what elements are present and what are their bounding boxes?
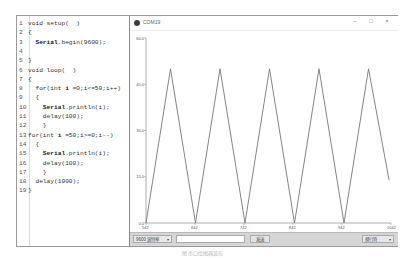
line-number: 16 (19, 159, 28, 168)
code-line: 19} (19, 186, 32, 195)
plot-area: 60.045.030.015.00.05426427428429421042 (130, 30, 398, 233)
code-text: } (28, 187, 32, 194)
arduino-app-icon (134, 20, 140, 26)
bottom-toolbar: 9600 波特率 ▾ 发送 换行符 ▾ (130, 232, 398, 246)
code-line: 10 Serial.println(i); (19, 103, 110, 112)
code-line: 14 { (19, 140, 39, 149)
baud-rate-value: 9600 波特率 (136, 237, 159, 242)
code-text: delay(1000); (28, 178, 80, 185)
code-line: 9 { (19, 93, 39, 102)
code-text: } (28, 57, 32, 64)
line-number: 12 (19, 121, 28, 130)
line-number: 13 (19, 131, 28, 140)
code-line: 2{ (19, 28, 32, 37)
line-number: 7 (19, 75, 28, 84)
code-text: for(int i =50;i>=0;i--) (28, 132, 113, 139)
code-text: } (28, 169, 47, 176)
x-tick-label: 1042 (387, 225, 396, 230)
line-number: 18 (19, 177, 28, 186)
line-number: 10 (19, 103, 28, 112)
line-number: 4 (19, 47, 28, 56)
code-line: 11 delay(100); (19, 112, 84, 121)
code-text: { (28, 76, 32, 83)
title-bar[interactable]: COM19 – □ × (130, 16, 398, 31)
code-text: { (28, 141, 39, 148)
line-number: 2 (19, 28, 28, 37)
code-line: 4 (19, 47, 28, 56)
code-line: 1void setup( ) (19, 19, 80, 28)
line-number: 1 (19, 19, 28, 28)
code-line: 5} (19, 56, 32, 65)
series-line (146, 69, 389, 223)
y-tick-label: 15.0 (130, 174, 144, 179)
code-text: } (28, 122, 47, 129)
code-line: 8 for(int i =0;i<=50;i++) (19, 84, 121, 93)
send-button[interactable]: 发送 (250, 235, 270, 243)
code-line: 6void loop( ) (19, 66, 76, 75)
line-number: 8 (19, 84, 28, 93)
y-tick-label: 60.0 (130, 36, 144, 41)
chevron-down-icon: ▾ (389, 236, 391, 244)
window-title: COM19 (143, 19, 160, 25)
line-number: 11 (19, 112, 28, 121)
x-tick-label: 642 (191, 225, 198, 230)
line-number: 5 (19, 56, 28, 65)
line-number: 3 (19, 38, 28, 47)
code-line: 15 Serial.println(i); (19, 149, 110, 158)
line-chart (130, 30, 398, 233)
figure-caption: 图 串口绘图器波形 (0, 249, 405, 256)
code-text: Serial.begin(9600); (28, 39, 106, 46)
close-button[interactable]: × (382, 18, 392, 24)
x-tick-label: 542 (142, 225, 149, 230)
y-tick-label: 30.0 (130, 128, 144, 133)
code-text: { (28, 94, 39, 101)
screenshot-frame: 1void setup( )2{3 Serial.begin(9600);45}… (16, 15, 398, 247)
x-tick-label: 842 (289, 225, 296, 230)
code-text: { (28, 29, 32, 36)
line-number: 14 (19, 140, 28, 149)
x-tick-label: 742 (240, 225, 247, 230)
code-text: Serial.println(i); (28, 104, 110, 111)
code-line: 12 } (19, 121, 47, 130)
line-number: 9 (19, 93, 28, 102)
chevron-down-icon: ▾ (167, 236, 169, 244)
line-ending-select[interactable]: 换行符 ▾ (362, 235, 394, 243)
code-text: delay(100); (28, 160, 84, 167)
code-line: 17 } (19, 168, 47, 177)
line-number: 17 (19, 168, 28, 177)
code-text: delay(100); (28, 113, 84, 120)
serial-plotter-window: COM19 – □ × 60.045.030.015.00.0542642742… (129, 16, 398, 246)
y-tick-label: 45.0 (130, 82, 144, 87)
code-text: void loop( ) (28, 67, 76, 74)
code-line: 18 delay(1000); (19, 177, 80, 186)
line-number: 6 (19, 66, 28, 75)
code-text: void setup( ) (28, 20, 80, 27)
code-text: for(int i =0;i<=50;i++) (28, 85, 121, 92)
send-input[interactable] (176, 235, 245, 243)
code-line: 16 delay(100); (19, 159, 84, 168)
line-ending-value: 换行符 (365, 237, 377, 242)
baud-rate-select[interactable]: 9600 波特率 ▾ (133, 235, 172, 243)
x-tick-label: 942 (338, 225, 345, 230)
code-line: 13for(int i =50;i>=0;i--) (19, 131, 113, 140)
code-editor[interactable]: 1void setup( )2{3 Serial.begin(9600);45}… (17, 16, 129, 246)
line-number: 15 (19, 149, 28, 158)
maximize-button[interactable]: □ (366, 18, 376, 24)
code-text: Serial.println(i); (28, 150, 110, 157)
line-number: 19 (19, 186, 28, 195)
code-line: 3 Serial.begin(9600); (19, 38, 106, 47)
minimize-button[interactable]: – (350, 18, 360, 24)
code-line: 7{ (19, 75, 32, 84)
